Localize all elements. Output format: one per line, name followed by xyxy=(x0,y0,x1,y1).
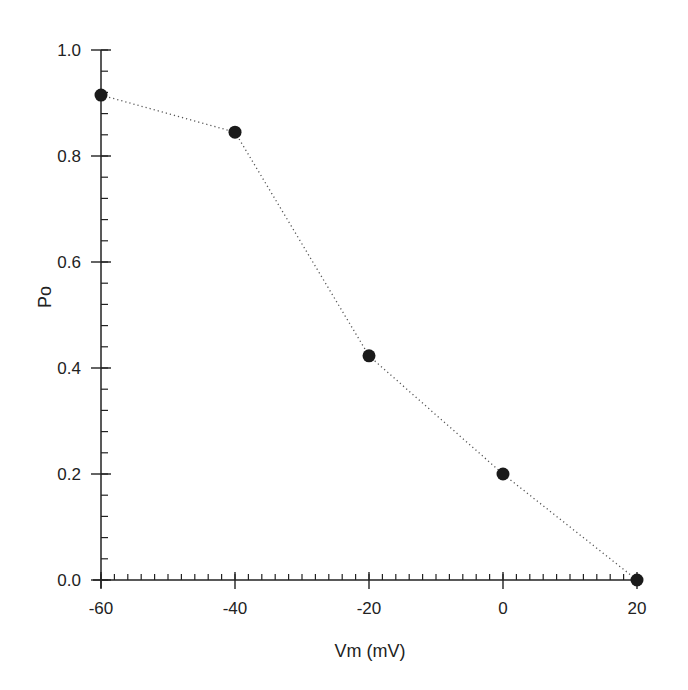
y-tick-label: 1.0 xyxy=(57,41,81,60)
line-chart: -60-40-20020 0.00.20.40.60.81.0 Vm (mV) … xyxy=(0,0,688,690)
y-axis-title: Po xyxy=(35,286,55,308)
y-tick-label: 0.6 xyxy=(57,253,81,272)
data-point-marker xyxy=(363,349,376,362)
y-tick-label: 0.4 xyxy=(57,359,81,378)
y-minor-ticks xyxy=(101,50,108,580)
data-point-marker xyxy=(631,574,644,587)
data-point-marker xyxy=(229,126,242,139)
data-point-marker xyxy=(95,89,108,102)
series-dotted-line xyxy=(101,95,637,580)
y-tick-label: 0.8 xyxy=(57,147,81,166)
y-tick-label: 0.0 xyxy=(57,571,81,590)
x-tick-labels: -60-40-20020 xyxy=(89,599,647,618)
x-tick-label: 20 xyxy=(628,599,647,618)
x-tick-label: -60 xyxy=(89,599,114,618)
y-tick-labels: 0.00.20.40.60.81.0 xyxy=(57,41,81,590)
data-markers xyxy=(95,89,644,587)
x-tick-label: 0 xyxy=(498,599,507,618)
x-axis-title: Vm (mV) xyxy=(335,641,406,661)
y-tick-label: 0.2 xyxy=(57,465,81,484)
x-tick-label: -20 xyxy=(357,599,382,618)
x-tick-label: -40 xyxy=(223,599,248,618)
data-point-marker xyxy=(497,468,510,481)
